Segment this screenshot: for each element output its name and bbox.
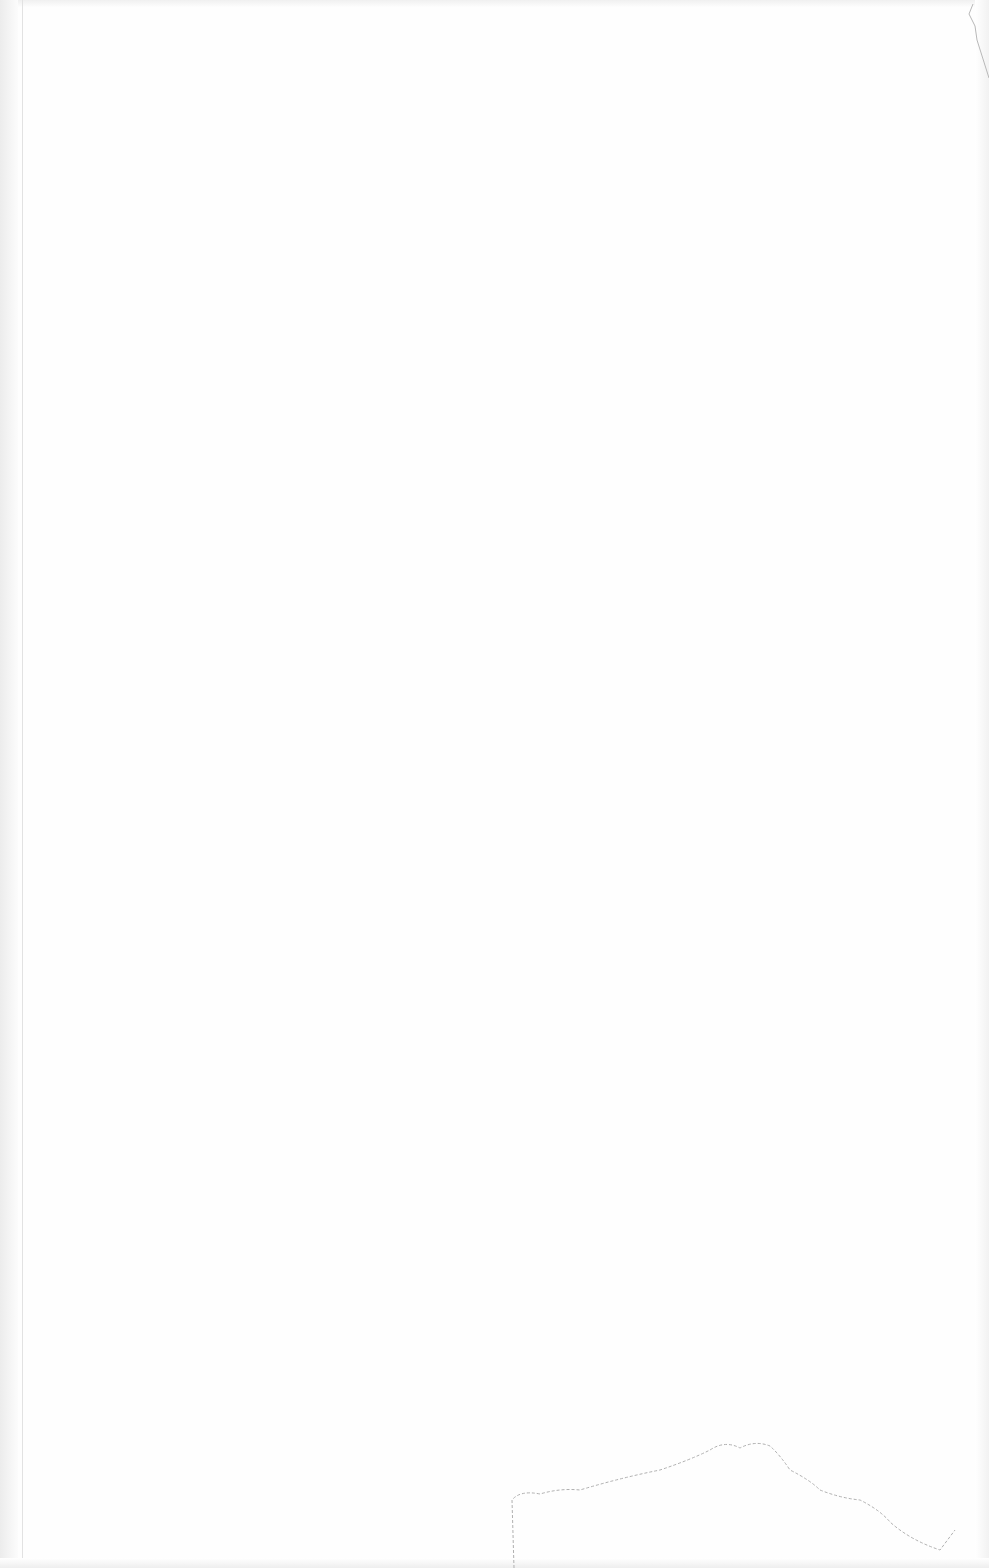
gutter-line [22, 0, 23, 1568]
torn-edge-mark [500, 1430, 960, 1568]
blank-scanned-page [0, 0, 989, 1568]
folded-corner-icon [929, 0, 989, 90]
top-edge-shadow [0, 0, 989, 8]
left-binding-gutter [0, 0, 18, 1568]
right-edge-shadow [975, 0, 989, 1568]
